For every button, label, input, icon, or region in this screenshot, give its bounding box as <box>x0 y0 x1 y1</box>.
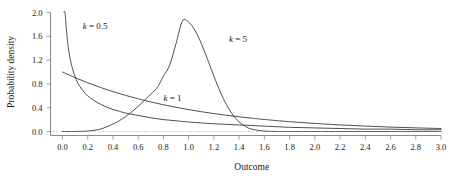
density-curve <box>63 19 442 131</box>
chart-canvas: 0.00.20.40.60.81.01.21.41.61.82.02.22.42… <box>0 0 458 179</box>
x-tick-label: 2.6 <box>385 142 396 152</box>
y-axis-title: Probability density <box>6 36 16 108</box>
y-tick-label: 2.0 <box>32 8 43 18</box>
x-tick-label: 3.0 <box>436 142 447 152</box>
density-curve <box>63 72 442 129</box>
y-axis-ticks: 0.00.40.81.21.62.0 <box>32 8 51 137</box>
density-curve <box>64 11 441 129</box>
x-tick-label: 2.4 <box>360 142 371 152</box>
x-tick-label: 0.6 <box>133 142 144 152</box>
x-tick-label: 1.6 <box>259 142 270 152</box>
x-axis-ticks: 0.00.20.40.60.81.01.21.41.61.82.02.22.42… <box>57 136 446 152</box>
x-tick-label: 0.0 <box>57 142 68 152</box>
y-tick-label: 1.2 <box>32 55 43 65</box>
y-tick-label: 0.0 <box>32 127 43 137</box>
curve-annotations: k = 0.5k = 5k = 1 <box>83 21 248 102</box>
y-tick-label: 0.4 <box>32 103 43 113</box>
x-tick-label: 1.0 <box>183 142 194 152</box>
x-tick-label: 2.8 <box>410 142 421 152</box>
y-tick-label: 0.8 <box>32 79 43 89</box>
x-axis-title: Outcome <box>234 162 269 172</box>
x-tick-label: 0.8 <box>158 142 169 152</box>
curve-label: k = 0.5 <box>83 21 108 31</box>
x-tick-label: 1.8 <box>284 142 295 152</box>
y-tick-label: 1.6 <box>32 31 43 41</box>
x-tick-label: 0.2 <box>82 142 93 152</box>
weibull-density-figure: 0.00.20.40.60.81.01.21.41.61.82.02.22.42… <box>0 0 458 179</box>
curve-label: k = 1 <box>163 93 181 103</box>
curve-label: k = 5 <box>229 34 248 44</box>
curve-series-group <box>63 11 442 131</box>
x-tick-label: 2.0 <box>310 142 321 152</box>
x-tick-label: 0.4 <box>108 142 119 152</box>
x-tick-label: 1.4 <box>234 142 245 152</box>
x-tick-label: 2.2 <box>335 142 346 152</box>
x-tick-label: 1.2 <box>209 142 220 152</box>
